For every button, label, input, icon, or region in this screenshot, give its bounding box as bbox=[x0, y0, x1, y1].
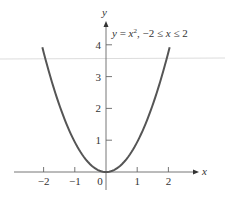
y-tick-label: 4 bbox=[96, 39, 102, 51]
x-tick-label: 1 bbox=[134, 175, 140, 187]
y-axis-arrow-icon bbox=[104, 21, 109, 27]
y-ticks: 1234 bbox=[96, 39, 113, 146]
x-tick-label: 0 bbox=[97, 175, 103, 187]
x-axis-arrow-icon bbox=[193, 170, 199, 175]
x-tick-label: −2 bbox=[38, 175, 50, 187]
y-tick-label: 3 bbox=[96, 71, 102, 83]
y-tick-label: 2 bbox=[96, 102, 102, 114]
y-tick-label: 1 bbox=[96, 134, 102, 146]
x-tick-label: −1 bbox=[69, 175, 81, 187]
x-tick-label: 2 bbox=[166, 175, 172, 187]
x-axis-label: x bbox=[201, 165, 207, 177]
x-ticks: −2−1012 bbox=[38, 167, 171, 187]
background-rule bbox=[0, 58, 225, 59]
function-annotation: y = x2, −2 ≤ x ≤ 2 bbox=[111, 27, 188, 39]
y-axis-label: y bbox=[101, 6, 107, 18]
parabola-chart: x y −2−1012 1234 y = x2, −2 ≤ x ≤ 2 bbox=[0, 0, 225, 199]
